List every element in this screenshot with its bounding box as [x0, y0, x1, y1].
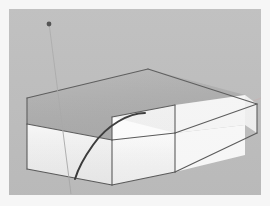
horizontal-axis-line: [253, 98, 261, 101]
model-viewport[interactable]: [9, 9, 261, 195]
frame-edge-right: [261, 0, 270, 206]
face-right-front-face[interactable]: [175, 125, 245, 172]
shading-front-mid: [112, 133, 175, 185]
frame-edge-top: [0, 0, 270, 9]
frame-edge-left: [0, 0, 9, 206]
endpoint-marker[interactable]: [47, 22, 52, 27]
scene-canvas[interactable]: [9, 9, 261, 195]
frame-edge-bottom: [0, 195, 270, 206]
viewport-frame: [0, 0, 270, 206]
